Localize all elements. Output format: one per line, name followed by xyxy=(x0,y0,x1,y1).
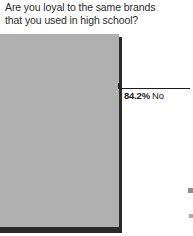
bar-value-category: No xyxy=(152,90,164,101)
bar-value-percent: 84.2% xyxy=(124,90,150,101)
callout-leader-line xyxy=(118,88,190,89)
chart-title-line-2: that you used in high school? xyxy=(5,14,191,27)
cropped-neighbor-mark-upper xyxy=(188,188,193,193)
plot-area: 84.2%No xyxy=(0,30,193,236)
cropped-neighbor-mark-lower xyxy=(189,214,193,218)
chart-title-line-1: Are you loyal to the same brands xyxy=(5,1,191,14)
survey-bar-chart: Are you loyal to the same brands that yo… xyxy=(0,0,193,236)
bar-no xyxy=(0,34,119,227)
bar-value-label: 84.2%No xyxy=(124,90,164,102)
chart-title: Are you loyal to the same brands that yo… xyxy=(5,1,191,26)
